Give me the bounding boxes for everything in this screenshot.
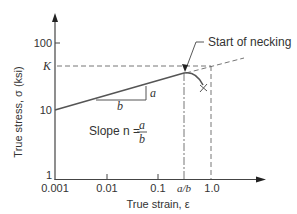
necking-label: Start of necking [208,35,291,49]
x-ticks [107,174,158,179]
flow-curve [55,73,203,110]
y-tick-label: 1 [46,169,52,181]
y-tick-label-K: K [42,59,52,73]
slope-text: Slope n = [89,124,140,138]
slope-formula: Slope n = [89,124,140,138]
x-axis-label: True strain, ε [126,198,189,210]
x-axis-arrow-icon [256,177,266,183]
necking-leader-line [187,42,204,66]
y-tick-label: 100 [34,37,52,49]
triangle-label-a: a [150,86,156,100]
slope-triangle [96,86,146,100]
x-tick-label: 0.1 [150,182,165,194]
x-tick-label: 0.01 [96,182,117,194]
slope-denominator: b [139,132,145,146]
x-tick-label: 0.001 [41,182,69,194]
x-tick-label: 1.0 [204,182,219,194]
flow-curve-diagram: 100 K 10 1 0.001 0.01 0.1 a/b 1.0 True s… [0,0,297,214]
x-tick-label-a-over-b: a/b [177,182,192,194]
y-axis-label: True stress, σ (ksi) [12,66,24,157]
y-axis-arrow-icon [52,13,58,22]
y-tick-label: 10 [40,104,52,116]
slope-numerator: a [139,118,145,132]
fracture-marker-icon [200,84,207,92]
extrapolation-line [186,58,244,73]
necking-arrow-icon [182,64,188,72]
triangle-label-b: b [117,99,123,113]
